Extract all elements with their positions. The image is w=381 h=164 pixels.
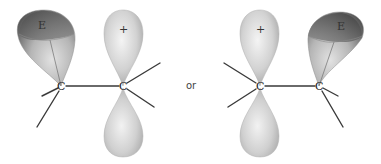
right-plus-label: + [256,23,265,36]
left-plus-label: + [119,23,128,36]
left-p-orbital-lower [104,88,143,157]
left-p-orbital-upper: + [104,10,143,86]
right-carbon-2: C [315,80,323,93]
right-p-orbital-lower [240,88,279,157]
right-p-orbital-upper: + [240,10,279,86]
right-e-label: E [337,20,345,33]
right-bond-c1-b [228,89,256,107]
right-bond-c2-a [323,88,338,96]
or-connector: or [186,80,197,91]
left-carbon-1: C [57,80,65,93]
left-bond-c1-a [42,88,58,96]
right-e-orbital-lobe: E [308,12,364,86]
left-e-label: E [38,19,46,32]
right-structure: + E C C [224,10,364,157]
left-structure: E + C C [17,10,160,157]
left-carbon-2: C [119,80,127,93]
right-bond-c2-b [322,91,343,127]
left-e-orbital-lobe: E [17,10,75,86]
right-carbon-1: C [256,80,264,93]
orbital-diagram: E + C C or + [0,0,381,164]
left-bond-c1-b [37,91,59,127]
